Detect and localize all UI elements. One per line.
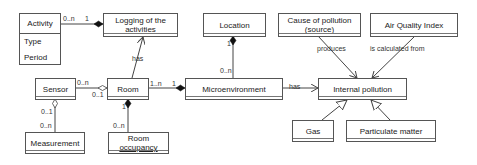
mult-sensor-room-dst: 0..1 xyxy=(92,91,104,98)
mult-activity-src: 0..n xyxy=(63,15,75,22)
mult-sensor-measurement-dst: 0..n xyxy=(40,122,52,129)
attribute-type: Type xyxy=(20,34,60,50)
class-activity[interactable]: Activity Type Period xyxy=(19,13,61,65)
mult-micro-location-dst: 1 xyxy=(227,40,231,47)
class-room[interactable]: Room xyxy=(107,78,149,100)
class-room-name: Room xyxy=(108,85,148,94)
class-gas-name: Gas xyxy=(293,127,333,136)
class-cause-name-line2: (source) xyxy=(279,25,360,34)
class-room-occupancy-line2: occupancy xyxy=(109,143,168,152)
class-logging-name-line1: Logging of the xyxy=(104,16,177,25)
class-logging-name-line2: activities xyxy=(104,25,177,34)
class-location-name: Location xyxy=(204,21,265,30)
mult-room-micro-dst: 1 xyxy=(172,80,176,87)
class-activity-name: Activity xyxy=(20,14,60,34)
class-particulate-name: Particulate matter xyxy=(347,127,435,136)
label-cause-produces: produces xyxy=(317,45,346,52)
class-logging-of-the-activities[interactable]: Logging of the activities xyxy=(103,13,178,37)
mult-activity-dst: 1 xyxy=(85,15,89,22)
attribute-period: Period xyxy=(20,50,60,66)
class-location[interactable]: Location xyxy=(203,13,266,37)
class-room-occupancy-line1: Room xyxy=(109,134,168,143)
class-microenvironment[interactable]: Microenvironment xyxy=(185,78,283,100)
class-microenvironment-name: Microenvironment xyxy=(186,85,282,94)
label-micro-has-internal: has xyxy=(289,83,300,90)
label-aqi-is-calculated-from: is calculated from xyxy=(370,45,424,52)
class-internal-pollution[interactable]: Internal pollution xyxy=(318,78,407,100)
mult-sensor-room-src: 0..n xyxy=(77,79,89,86)
mult-micro-location-src: 0..n xyxy=(220,67,232,74)
class-particulate-matter[interactable]: Particulate matter xyxy=(346,120,436,142)
label-room-has-logging: has xyxy=(132,55,143,62)
class-sensor[interactable]: Sensor xyxy=(35,78,76,100)
class-room-occupancy[interactable]: Room occupancy xyxy=(108,132,169,154)
class-aqi-name: Air Quality Index xyxy=(371,21,457,30)
mult-sensor-measurement-src: 0..1 xyxy=(41,108,53,115)
class-sensor-name: Sensor xyxy=(36,85,75,94)
class-gas[interactable]: Gas xyxy=(292,120,334,142)
mult-room-micro-src: 1..n xyxy=(150,80,162,87)
class-measurement-name: Measurement xyxy=(26,139,84,148)
class-cause-name-line1: Cause of pollution xyxy=(279,16,360,25)
mult-room-occupancy-src: 1 xyxy=(122,103,126,110)
mult-room-occupancy-dst: 0..n xyxy=(113,122,125,129)
class-measurement[interactable]: Measurement xyxy=(25,132,85,154)
class-cause-of-pollution[interactable]: Cause of pollution (source) xyxy=(278,13,361,37)
class-internal-pollution-name: Internal pollution xyxy=(319,85,406,94)
class-air-quality-index[interactable]: Air Quality Index xyxy=(370,13,458,37)
